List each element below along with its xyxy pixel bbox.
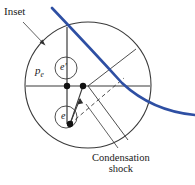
pressure-subscript: e xyxy=(41,70,44,79)
bubble-circle-e xyxy=(55,106,77,128)
main-inset-circle xyxy=(25,22,151,148)
node-dot-left xyxy=(64,83,70,89)
pressure-label: pe xyxy=(35,64,44,79)
inset-leader-line xyxy=(23,22,44,44)
inset-diagram-figure: Inset pe e′ e Condensationshock xyxy=(0,0,195,185)
shock-leader-line xyxy=(86,104,118,148)
lower-right-radial-line xyxy=(88,86,128,140)
condensation-shock-label: Condensationshock xyxy=(92,152,150,175)
shock-label-line1: Condensation xyxy=(92,152,150,163)
shock-label-line2: shock xyxy=(92,163,150,174)
node-dot-right xyxy=(80,83,86,89)
point-label-e-prime: e′ xyxy=(60,61,67,72)
node-dot-bottom xyxy=(67,121,73,127)
inset-label: Inset xyxy=(4,6,25,18)
point-label-e: e xyxy=(61,110,65,121)
